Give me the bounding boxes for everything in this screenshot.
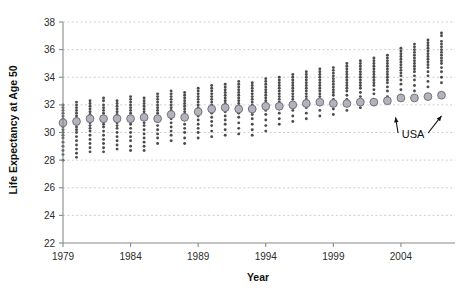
country-dot (251, 90, 254, 93)
country-dot (359, 73, 362, 76)
country-dot (143, 149, 146, 152)
country-dot (143, 137, 146, 140)
usa-marker (73, 118, 81, 126)
usa-annotation-label: USA (402, 128, 425, 140)
country-dot (197, 137, 200, 140)
usa-marker (356, 98, 364, 106)
country-dot (116, 105, 119, 108)
country-dot (183, 91, 186, 94)
country-dot (359, 87, 362, 90)
country-dot (264, 77, 267, 80)
country-dot (372, 88, 375, 91)
x-tick-label: 1989 (187, 251, 210, 262)
country-dot (170, 126, 173, 129)
country-dot (129, 131, 132, 134)
country-dot (440, 45, 443, 48)
country-dot (305, 73, 308, 76)
country-dot (386, 81, 389, 84)
country-dot (413, 43, 416, 46)
country-dot (386, 54, 389, 57)
country-dot (264, 94, 267, 97)
country-dot (251, 134, 254, 137)
country-dot (116, 110, 119, 113)
usa-marker (221, 104, 229, 112)
usa-marker (438, 91, 446, 99)
country-dot (210, 98, 213, 101)
country-dot (156, 106, 159, 109)
country-dot (156, 95, 159, 98)
country-dot (224, 119, 227, 122)
usa-marker (167, 111, 175, 119)
country-dot (210, 101, 213, 104)
country-dot (359, 106, 362, 109)
y-tick-label: 36 (44, 44, 56, 55)
country-dot (197, 119, 200, 122)
country-dot (102, 112, 105, 115)
country-dot (264, 88, 267, 91)
country-dot (291, 92, 294, 95)
country-dot (318, 90, 321, 93)
country-dot (251, 87, 254, 90)
country-dot (386, 73, 389, 76)
country-dot (143, 102, 146, 105)
country-dot (440, 51, 443, 54)
country-dot (224, 91, 227, 94)
country-dot (305, 70, 308, 73)
country-dot (359, 81, 362, 84)
country-dot (332, 74, 335, 77)
country-dot (89, 110, 92, 113)
country-dot (345, 68, 348, 71)
country-dot (305, 117, 308, 120)
country-dot (251, 123, 254, 126)
country-dot (89, 127, 92, 130)
country-dot (264, 99, 267, 102)
country-dot (427, 39, 430, 42)
country-dot (224, 123, 227, 126)
country-dot (440, 70, 443, 73)
country-dot (156, 137, 159, 140)
country-dot (427, 66, 430, 69)
y-tick-label: 30 (44, 127, 56, 138)
country-dot (224, 99, 227, 102)
country-dot (224, 83, 227, 86)
country-dot (102, 142, 105, 145)
country-dot (305, 112, 308, 115)
country-dot (318, 84, 321, 87)
country-dot (129, 149, 132, 152)
country-dot (399, 63, 402, 66)
country-dot (170, 92, 173, 95)
country-dot (264, 91, 267, 94)
country-dot (332, 88, 335, 91)
country-dot (386, 90, 389, 93)
country-dot (116, 135, 119, 138)
country-dot (372, 84, 375, 87)
country-dot (183, 123, 186, 126)
country-dot (75, 126, 78, 129)
annotations-group: USA (394, 116, 441, 140)
country-dot (291, 79, 294, 82)
country-dot (197, 90, 200, 93)
country-dot (440, 81, 443, 84)
country-dot (89, 130, 92, 133)
country-dot (386, 65, 389, 68)
country-dot (332, 91, 335, 94)
country-dot (75, 114, 78, 117)
country-dot (183, 105, 186, 108)
country-dot (75, 152, 78, 155)
country-dot (332, 83, 335, 86)
country-dot (372, 65, 375, 68)
country-dot (102, 146, 105, 149)
country-dot (264, 119, 267, 122)
country-dot (413, 84, 416, 87)
country-dot (318, 70, 321, 73)
country-dot (305, 81, 308, 84)
country-dot (143, 121, 146, 124)
country-dot (427, 70, 430, 73)
country-dot (129, 103, 132, 106)
country-dot (210, 130, 213, 133)
country-dot (143, 105, 146, 108)
country-dot (440, 54, 443, 57)
country-dot (318, 73, 321, 76)
country-dot (264, 80, 267, 83)
y-tick-label: 34 (44, 72, 56, 83)
